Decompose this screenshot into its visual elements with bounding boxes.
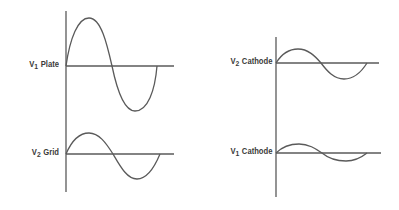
label-subscript: 1	[235, 149, 239, 158]
v1-plate-label: V1Plate	[29, 59, 59, 71]
label-prefix: V	[230, 56, 235, 66]
label-text: Plate	[41, 59, 59, 69]
label-subscript: 2	[235, 59, 239, 68]
v2-cathode-label: V2Cathode	[230, 56, 272, 68]
label-prefix: V	[230, 146, 235, 156]
v2-cathode-waveform	[276, 49, 367, 79]
label-subscript: 2	[37, 150, 41, 159]
v2-grid-waveform	[66, 133, 160, 179]
label-text: Grid	[43, 147, 59, 157]
label-subscript: 1	[34, 62, 38, 71]
label-text: Cathode	[241, 146, 272, 156]
v1-plate-waveform	[66, 18, 157, 111]
label-text: Cathode	[241, 56, 272, 66]
v1-cathode-label: V1Cathode	[230, 146, 272, 158]
waveform-diagram	[0, 0, 399, 210]
v2-grid-label: V2Grid	[32, 147, 59, 159]
